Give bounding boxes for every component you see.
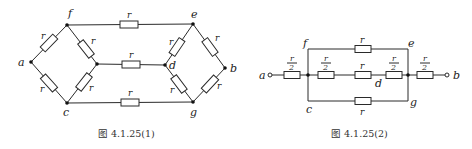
node-label-c: c: [306, 103, 312, 116]
terminal-b: [445, 73, 449, 77]
node-center: [95, 62, 99, 66]
node-label-g: g: [190, 106, 197, 119]
node-e: [191, 22, 195, 26]
resistor-label: r: [360, 107, 365, 117]
resistor-label: r: [41, 31, 46, 41]
resistor-label: r: [127, 10, 132, 20]
fraction-label-r-over-2: r 2: [321, 54, 331, 72]
resistor-label: r: [360, 61, 365, 71]
node-right-junction: [406, 73, 410, 77]
figure-2-simplified-circuit: r r r r 2 r 2 r 2 r 2 a b: [259, 35, 460, 139]
node-left-junction: [306, 73, 310, 77]
resistor-label: r: [360, 35, 365, 45]
circuit-figures: r r r r r r r r r r r a f c e d b g 图 4.…: [0, 0, 472, 149]
node-label-g: g: [410, 96, 417, 109]
resistor-c-g: [355, 98, 371, 105]
node-label-b: b: [453, 69, 460, 82]
node-label-f: f: [67, 7, 74, 20]
denominator: 2: [288, 63, 294, 72]
node-label-e: e: [191, 8, 198, 21]
denominator: 2: [322, 63, 328, 72]
denominator: 2: [421, 63, 427, 72]
resistor-middle-half-2: [386, 72, 402, 79]
resistor-label: r: [91, 36, 96, 46]
resistor-middle-half-1: [318, 72, 334, 79]
node-label-d: d: [169, 59, 176, 72]
node-d: [163, 63, 167, 67]
node-f: [65, 23, 69, 27]
node-g: [191, 100, 195, 104]
resistor-f-e: [355, 46, 371, 53]
fraction-label-r-over-2: r 2: [420, 54, 430, 72]
numerator: r: [290, 54, 295, 63]
numerator: r: [423, 54, 428, 63]
resistor-label: r: [40, 84, 45, 94]
resistor-f-e: [120, 21, 138, 28]
terminal-a: [268, 73, 272, 77]
node-a: [29, 60, 33, 64]
node-label-f: f: [302, 37, 309, 50]
node-c: [65, 101, 69, 105]
fraction-label-r-over-2: r 2: [389, 54, 399, 72]
resistor-label: r: [89, 83, 94, 93]
figure-1-caption: 图 4.1.25(1): [98, 128, 155, 139]
resistor-a-half: [284, 72, 300, 79]
resistor-label: r: [129, 50, 134, 60]
numerator: r: [392, 54, 397, 63]
node-label-a: a: [18, 56, 25, 69]
figure-1-bridge-circuit: r r r r r r r r r r r a f c e d b g 图 4.…: [18, 7, 237, 139]
figure-2-caption: 图 4.1.25(2): [331, 128, 388, 139]
resistor-label: r: [128, 88, 133, 98]
resistor-middle-r: [355, 72, 371, 79]
numerator: r: [324, 54, 329, 63]
fraction-label-r-over-2: r 2: [287, 54, 297, 72]
resistor-b-half: [417, 72, 433, 79]
node-b: [223, 66, 227, 70]
node-label-a: a: [259, 69, 266, 82]
node-label-d: d: [375, 77, 382, 90]
node-label-c: c: [63, 106, 69, 119]
node-label-b: b: [230, 62, 237, 75]
resistor-label: r: [169, 37, 174, 47]
resistor-label: r: [217, 81, 222, 91]
denominator: 2: [390, 63, 396, 72]
resistor-label: r: [215, 33, 220, 43]
resistor-label: r: [170, 85, 175, 95]
resistor-c-g: [121, 99, 139, 106]
resistor-center-d: [122, 61, 140, 68]
node-label-e: e: [408, 37, 415, 50]
